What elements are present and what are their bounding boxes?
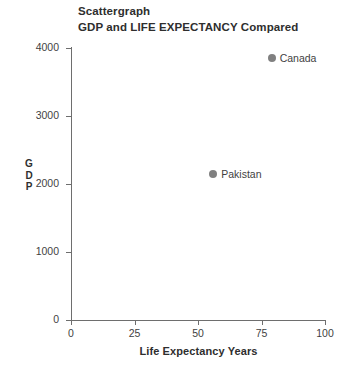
x-axis-tick: 100 (325, 320, 326, 325)
y-axis-tick: 1000 (66, 252, 71, 253)
y-axis-tick-label: 1000 (36, 245, 59, 257)
chart-title: Scattergraph (78, 4, 328, 19)
x-axis-tick: 50 (198, 320, 199, 325)
chart-subtitle: GDP and LIFE EXPECTANCY Compared (78, 19, 328, 35)
y-axis-tick-label: 0 (53, 313, 59, 325)
data-point[interactable] (209, 170, 217, 178)
x-axis-tick-label: 25 (129, 327, 141, 339)
y-axis-title: G D P (22, 158, 36, 193)
data-point-label: Pakistan (221, 168, 261, 180)
chart-title-block: Scattergraph GDP and LIFE EXPECTANCY Com… (78, 4, 328, 35)
x-axis-title: Life Expectancy Years (71, 345, 326, 357)
y-axis-title-letter: P (22, 181, 36, 193)
x-axis-tick-label: 75 (256, 327, 268, 339)
y-axis-tick-label: 4000 (36, 41, 59, 53)
x-axis-tick-label: 0 (68, 327, 74, 339)
y-axis-tick: 2000 (66, 184, 71, 185)
plot-area: 010002000300040000255075100CanadaPakista… (71, 48, 325, 320)
y-axis-title-letter: G (22, 158, 36, 170)
x-axis-tick: 75 (262, 320, 263, 325)
y-axis-title-letter: D (22, 170, 36, 182)
data-point-label: Canada (280, 52, 317, 64)
y-axis-tick: 4000 (66, 48, 71, 49)
y-axis-tick-label: 2000 (36, 177, 59, 189)
x-axis-tick: 0 (71, 320, 72, 325)
x-axis-tick-label: 50 (192, 327, 204, 339)
data-point[interactable] (268, 54, 276, 62)
x-axis-tick-label: 100 (316, 327, 334, 339)
y-axis-tick: 3000 (66, 116, 71, 117)
y-axis-tick-label: 3000 (36, 109, 59, 121)
x-axis-tick: 25 (135, 320, 136, 325)
